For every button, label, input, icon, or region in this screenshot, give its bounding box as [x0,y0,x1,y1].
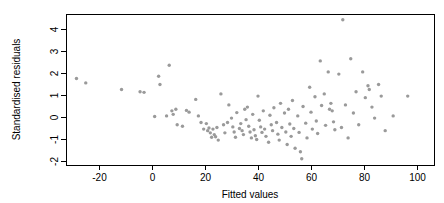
data-point [373,116,376,119]
data-point [251,113,254,116]
data-point [158,83,161,86]
data-point [256,94,259,97]
data-point [323,92,326,95]
data-point [254,134,257,137]
data-point [250,136,253,139]
data-point [332,120,335,123]
data-point [234,136,237,139]
data-point [327,70,330,73]
data-point [168,64,171,67]
data-point [239,122,242,125]
x-tick-label: 80 [359,172,371,183]
data-point [222,123,225,126]
data-point [258,119,261,122]
data-point [337,72,340,75]
data-point [280,126,283,129]
data-point [344,103,347,106]
data-point [231,125,234,128]
data-point [242,133,245,136]
data-point [157,75,160,78]
data-point [194,98,197,101]
data-points-layer [75,18,410,160]
data-point [308,86,311,89]
data-point [275,121,278,124]
data-point [309,110,312,113]
data-point [329,102,332,105]
data-point [174,108,177,111]
scatter-plot-panel: -20020406080100 -2-101234 Fitted values … [0,0,444,203]
x-tick-label: 40 [253,172,265,183]
data-point [391,114,394,117]
data-point [211,127,214,130]
x-tick-label: 20 [200,172,212,183]
data-point [377,83,380,86]
data-point [202,127,205,130]
data-point [368,88,371,91]
data-point [340,126,343,129]
data-point [296,114,299,117]
x-tick-label: 100 [409,172,426,183]
x-tick-label: 60 [306,172,318,183]
data-point [279,102,282,105]
data-point [297,131,300,134]
data-point [333,128,336,131]
data-point [361,70,364,73]
y-tick-label: 0 [49,114,60,120]
data-point [75,77,78,80]
data-point [172,113,175,116]
data-point [219,92,222,95]
data-point [278,138,281,141]
data-point [263,127,266,130]
data-point [406,94,409,97]
data-point [181,125,184,128]
data-point [120,88,123,91]
y-axis-ticks: -2-101234 [49,26,67,166]
data-point [316,132,319,135]
data-point [217,138,220,141]
data-point [205,122,208,125]
data-point [223,131,226,134]
data-point [243,108,246,111]
data-point [246,105,249,108]
data-point [210,136,213,139]
data-point [248,130,251,133]
y-tick-label: -2 [49,157,60,166]
data-point [165,114,168,117]
data-point [331,109,334,112]
data-point [244,118,247,121]
data-point [311,127,314,130]
data-point [289,135,292,138]
y-axis-title: Standardised residuals [11,39,22,141]
data-point [138,90,141,93]
data-point [366,84,369,87]
x-axis-ticks: -20020406080100 [92,165,426,183]
data-point [380,94,383,97]
x-tick-label: 0 [150,172,156,183]
data-point [364,96,367,99]
data-point [276,132,279,135]
data-point [227,103,230,106]
data-point [354,90,357,93]
data-point [235,111,238,114]
data-point [170,109,173,112]
data-point [264,135,267,138]
data-point [352,111,355,114]
data-point [209,131,212,134]
y-tick-label: -1 [49,135,60,144]
data-point [259,125,262,128]
data-point [175,123,178,126]
data-point [288,122,291,125]
data-point [270,123,273,126]
data-point [315,119,318,122]
data-point [341,18,344,21]
residuals-vs-fitted-chart: -20020406080100 -2-101234 Fitted values … [0,0,444,203]
data-point [283,111,286,114]
data-point [319,59,322,62]
data-point [300,157,303,160]
y-tick-label: 3 [49,48,60,54]
y-tick-label: 2 [49,70,60,76]
data-point [232,130,235,133]
data-point [252,128,255,131]
data-point [304,121,307,124]
data-point [384,129,387,132]
